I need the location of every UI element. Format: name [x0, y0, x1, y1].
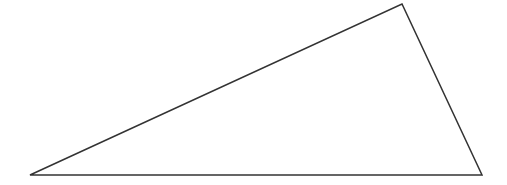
triangle-shape — [30, 4, 482, 175]
triangle-diagram — [0, 0, 507, 185]
